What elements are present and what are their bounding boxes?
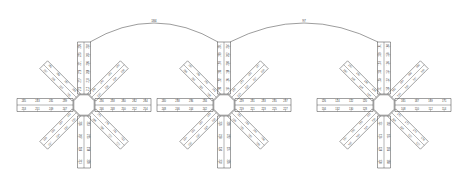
dimension-label: 256 (99, 99, 104, 103)
spoke-arm: 136138140142144146148150 (340, 61, 380, 101)
dimension-label: 202 (226, 52, 230, 57)
spoke-arm: 266268270272274276211213 (88, 109, 128, 149)
dimension-label: 160 (386, 44, 390, 49)
dimension-label: 232 (218, 159, 222, 164)
dimension-label: 164 (386, 134, 390, 139)
dimension-label: 276 (104, 120, 110, 126)
dimension-label: 157 (378, 61, 382, 66)
spoke-centerline (392, 65, 425, 98)
dimension-label: 126 (322, 99, 327, 103)
dimension-label: 247 (63, 107, 68, 111)
dimension-label: 194 (226, 86, 230, 91)
dimension-label: 136 (371, 87, 377, 93)
dimension-label: 213 (120, 136, 126, 142)
radial-cluster: 1501521541561581601511531551571591611431… (317, 42, 451, 168)
dimension-label: 253 (22, 107, 27, 111)
dimension-label: 170 (396, 112, 402, 118)
dimension-label: 206 (86, 61, 90, 66)
dimension-label: 223 (78, 52, 82, 57)
dimension-label: 235 (272, 99, 277, 103)
dimension-label: 211 (78, 160, 82, 165)
dimension-label: 215 (78, 86, 82, 91)
spoke-arm: 212210208206204202215217219221223226 (78, 42, 91, 94)
dimension-label: 130 (378, 159, 382, 164)
dimension-label: 237 (283, 99, 288, 103)
spoke-arm: 150152154156158160151153155157159161 (378, 42, 391, 94)
dimension-label: 198 (226, 69, 230, 74)
dimension-label: 137 (342, 135, 348, 141)
dimension-label: 213 (236, 112, 242, 118)
dimension-label: 122 (349, 99, 354, 103)
spoke-arm: 226228230232220222224226 (218, 116, 231, 168)
hub-octagon (214, 95, 234, 115)
dimension-label: 258 (110, 99, 115, 103)
dimension-label: 209 (78, 147, 82, 152)
dimension-label: 140 (355, 71, 361, 77)
dimension-label: 233 (261, 99, 266, 103)
dimension-label: 226 (50, 127, 56, 133)
spoke-centerline (184, 113, 217, 146)
hub-octagon (374, 95, 394, 115)
dimension-label: 220 (198, 120, 204, 126)
spoke-arm: 120122124126128130132134 (317, 99, 373, 112)
dimension-label: 208 (86, 69, 90, 74)
spoke-centerline (232, 65, 265, 98)
dimension-label: 238 (91, 86, 97, 92)
dimension-label: 210 (86, 78, 90, 83)
dimension-label: 242 (203, 107, 208, 111)
dimension-label: 222 (190, 127, 196, 133)
dimension-label: 255 (71, 87, 77, 93)
dimension-label: 226 (218, 121, 222, 126)
dimension-label: 247 (187, 63, 193, 69)
dimension-label: 274 (96, 112, 102, 118)
spoke-arm: 239241243245213215244246 (228, 109, 268, 149)
dimension-label: 138 (363, 79, 369, 85)
dimension-label: 246 (260, 136, 266, 142)
dimension-label: 221 (250, 107, 255, 111)
dimension-label: 211 (231, 87, 237, 93)
dimension-label: 215 (247, 71, 253, 77)
spoke-arm: 234236238240242244246248 (157, 99, 213, 112)
arc-layer: 18497 (90, 19, 378, 42)
dimension-label: 223 (261, 107, 266, 111)
dimension-label: 261 (47, 63, 53, 69)
dimension-label: 244 (115, 63, 121, 69)
spoke-arm: 108110112114165167169171 (395, 99, 451, 112)
spoke-centerline (44, 113, 77, 146)
dimension-label: 196 (226, 78, 230, 83)
dimension-label: 132 (335, 107, 340, 111)
dimension-label: 243 (203, 79, 209, 85)
spoke-centerline (392, 113, 425, 146)
dimension-label: 245 (22, 99, 27, 103)
dimension-label: 215 (244, 120, 250, 126)
dimension-label: 222 (226, 134, 230, 139)
dimension-label: 126 (378, 134, 382, 139)
dimension-label: 215 (86, 134, 90, 139)
dimension-label: 166 (407, 71, 413, 77)
spoke-arm: 218220222224226228230232 (180, 109, 220, 149)
dimension-label: 155 (378, 69, 382, 74)
dimension-label: 201 (218, 44, 222, 49)
dimension-label: 174 (412, 128, 418, 134)
spoke-centerline (344, 65, 377, 98)
dimension-label: 168 (415, 63, 421, 69)
spoke-arm: 230232234236238240242244 (88, 61, 128, 101)
dimension-label: 120 (363, 99, 368, 103)
spoke-centerline (344, 113, 377, 146)
dimension-label: 225 (272, 107, 277, 111)
dimension-label: 164 (399, 79, 405, 85)
cluster-layer: 2122102082062042022152172192212232262302… (17, 42, 451, 168)
radial-cluster: 1941961982002022041901921951971992012032… (157, 42, 291, 168)
arc-dimension-label: 184 (151, 19, 157, 23)
dimension-label: 241 (49, 99, 54, 103)
dimension-label: 227 (283, 107, 288, 111)
dimension-label: 207 (78, 134, 82, 139)
dimension-label: 165 (401, 99, 406, 103)
dimension-label: 240 (162, 99, 167, 103)
technical-drawing-canvas: 18497 2122102082062042022152172192212232… (0, 0, 468, 175)
dimension-label: 205 (78, 121, 82, 126)
dimension-label: 220 (226, 121, 230, 126)
dimension-label: 168 (386, 159, 390, 164)
dimension-label: 142 (347, 63, 353, 69)
spoke-centerline (92, 65, 125, 98)
